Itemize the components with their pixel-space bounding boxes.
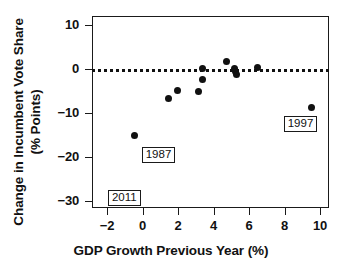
x-axis-tick-label: −2 [87,218,127,233]
x-axis-tick-label: 2 [158,218,198,233]
x-axis-label: GDP Growth Previous Year (%) [0,243,342,258]
x-axis-tick-label: 6 [229,218,269,233]
x-axis-tick [143,208,144,215]
x-axis-tick [320,208,321,215]
y-axis-tick [85,25,92,26]
x-axis-tick [214,208,215,215]
y-axis-tick-label: −20 [34,149,79,164]
y-axis-tick-label: 0 [34,61,79,76]
x-axis-tick-label: 0 [123,218,163,233]
y-axis-tick [85,201,92,202]
y-axis-tick [85,113,92,114]
x-axis-tick-label: 8 [265,218,305,233]
x-axis-tick-label: 10 [300,218,340,233]
y-axis-tick-label: −10 [34,105,79,120]
annotation-label-2011: 2011 [108,190,141,206]
y-axis-tick [85,157,92,158]
x-axis-tick [107,208,108,215]
x-axis-tick [285,208,286,215]
x-axis-tick [178,208,179,215]
annotation-label-1987: 1987 [142,147,176,163]
plot-frame [92,16,329,208]
y-axis-tick [85,69,92,70]
annotation-label-1997: 1997 [284,116,318,132]
x-axis-tick-label: 4 [194,218,234,233]
scatter-plot-figure: Change in Incumbent Vote Share (% Points… [0,0,342,268]
y-axis-tick-label: 10 [34,17,79,32]
y-axis-tick-label: −30 [34,193,79,208]
zero-reference-line [92,69,329,72]
x-axis-tick [249,208,250,215]
